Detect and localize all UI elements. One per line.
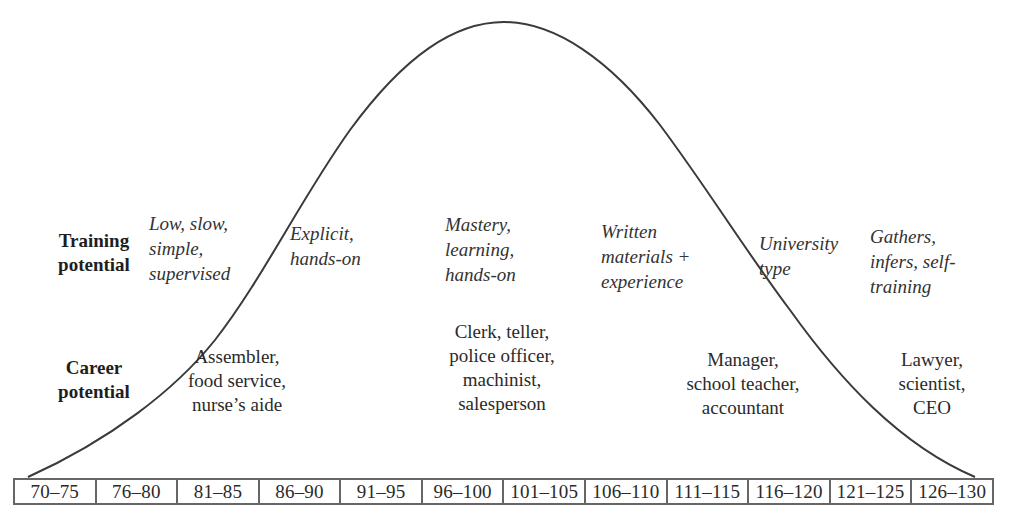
career-level-1: Assembler, food service, nurse’s aide	[182, 345, 292, 417]
career-potential-label: Career potential	[38, 356, 150, 404]
iq-range-cell: 96–100	[423, 480, 505, 503]
training-label-line2: potential	[38, 253, 150, 277]
iq-range-cell: 116–120	[749, 480, 831, 503]
training-level-6: Gathers, infers, self- training	[870, 224, 956, 299]
training-label-line1: Training	[38, 229, 150, 253]
training-level-2: Explicit, hands-on	[290, 221, 361, 271]
iq-range-cell: 76–80	[97, 480, 179, 503]
iq-range-cell: 121–125	[831, 480, 913, 503]
iq-range-cell: 86–90	[260, 480, 342, 503]
career-label-line2: potential	[38, 380, 150, 404]
training-level-3: Mastery, learning, hands-on	[445, 212, 516, 287]
training-level-1: Low, slow, simple, supervised	[149, 211, 230, 286]
iq-range-axis: 70–75 76–80 81–85 86–90 91–95 96–100 101…	[13, 478, 994, 505]
iq-range-cell: 81–85	[178, 480, 260, 503]
career-level-4: Lawyer, scientist, CEO	[882, 348, 982, 420]
training-level-4: Written materials + experience	[601, 219, 690, 294]
training-potential-label: Training potential	[38, 229, 150, 277]
iq-range-cell: 91–95	[341, 480, 423, 503]
iq-range-cell: 101–105	[504, 480, 586, 503]
iq-range-cell: 106–110	[586, 480, 668, 503]
career-level-3: Manager, school teacher, accountant	[678, 348, 808, 420]
iq-range-cell: 111–115	[668, 480, 750, 503]
iq-range-cell: 126–130	[912, 480, 992, 503]
career-label-line1: Career	[38, 356, 150, 380]
iq-range-cell: 70–75	[15, 480, 97, 503]
career-level-2: Clerk, teller, police officer, machinist…	[432, 320, 572, 416]
training-level-5: University type	[759, 231, 838, 281]
